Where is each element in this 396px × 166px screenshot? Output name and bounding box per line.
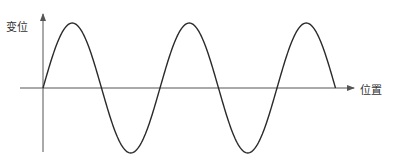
- diagram-canvas: [0, 0, 396, 166]
- y-axis-label: 变位: [6, 18, 28, 34]
- x-axis-label: 位置: [360, 81, 382, 97]
- sine-wave-diagram: 变位 位置: [0, 0, 396, 166]
